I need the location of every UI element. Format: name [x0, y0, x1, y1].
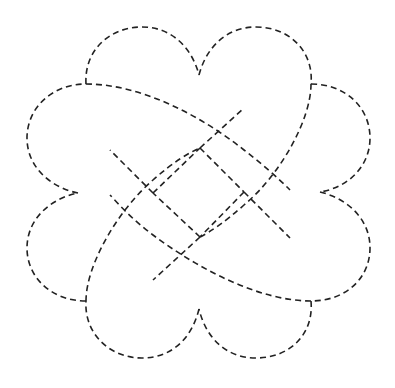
heart-bottom-left-lobe — [86, 301, 199, 358]
heart-right-bottom-lobe — [311, 192, 370, 301]
inner-line-bottom-left — [153, 193, 200, 237]
hearts-pattern-drawing — [0, 0, 395, 388]
tip-line-upper — [200, 108, 244, 148]
sweep-from-top-right — [200, 84, 311, 237]
heart-right-top-lobe — [311, 84, 370, 192]
heart-left-bottom-lobe — [27, 193, 86, 301]
heart-top-right-lobe — [199, 27, 311, 84]
tip-line-lower — [153, 237, 200, 280]
pattern-canvas — [0, 0, 395, 388]
inner-line-top-right — [200, 148, 244, 192]
heart-bottom-right-lobe — [199, 301, 311, 358]
sweep-from-bottom-right — [110, 195, 311, 301]
sweep-from-bottom-left — [86, 148, 200, 301]
inner-line-top-left — [153, 148, 200, 193]
inner-line-bottom-right — [200, 192, 244, 237]
heart-top-left-lobe — [86, 27, 199, 84]
heart-left-top-lobe — [27, 84, 86, 193]
sweep-from-top-left — [86, 84, 290, 190]
